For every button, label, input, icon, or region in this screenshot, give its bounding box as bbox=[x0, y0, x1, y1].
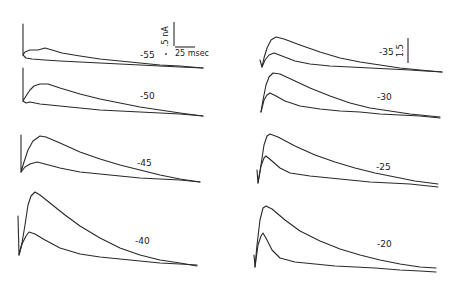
label-minus35: -35 bbox=[379, 48, 394, 57]
scale-left-horizontal-label: 25 msec bbox=[175, 50, 209, 58]
trace-minus55-upper bbox=[23, 24, 203, 68]
label-minus55: -55 bbox=[140, 51, 155, 60]
panel-minus30 bbox=[261, 73, 440, 118]
panel-minus25 bbox=[257, 134, 438, 187]
trace-minus25-upper bbox=[257, 134, 438, 184]
scale-left-vertical-label: .5 nA bbox=[162, 26, 170, 47]
label-minus50: -50 bbox=[140, 92, 155, 101]
panel-minus45 bbox=[21, 135, 200, 182]
panel-minus20 bbox=[254, 206, 436, 272]
panel-minus35 bbox=[260, 37, 442, 72]
panel-minus55 bbox=[23, 24, 203, 68]
trace-minus50-lower bbox=[23, 101, 203, 116]
trace-minus30-upper bbox=[261, 73, 440, 117]
trace-minus50-upper bbox=[23, 68, 203, 116]
scale-right-vertical-label: 1.5 bbox=[397, 44, 405, 57]
label-minus45: -45 bbox=[137, 159, 152, 168]
trace-minus40-upper bbox=[18, 192, 197, 266]
traces-figure bbox=[0, 0, 462, 286]
trace-minus40-lower bbox=[19, 232, 197, 265]
panel-minus40 bbox=[18, 192, 197, 266]
scale-dot bbox=[165, 53, 167, 55]
panel-minus50 bbox=[23, 68, 203, 116]
trace-minus45-lower bbox=[21, 162, 200, 182]
label-minus30: -30 bbox=[377, 93, 392, 102]
label-minus20: -20 bbox=[377, 240, 392, 249]
trace-minus20-lower bbox=[255, 233, 436, 272]
label-minus25: -25 bbox=[376, 163, 391, 172]
trace-minus25-lower bbox=[258, 156, 438, 187]
label-minus40: -40 bbox=[135, 237, 150, 246]
